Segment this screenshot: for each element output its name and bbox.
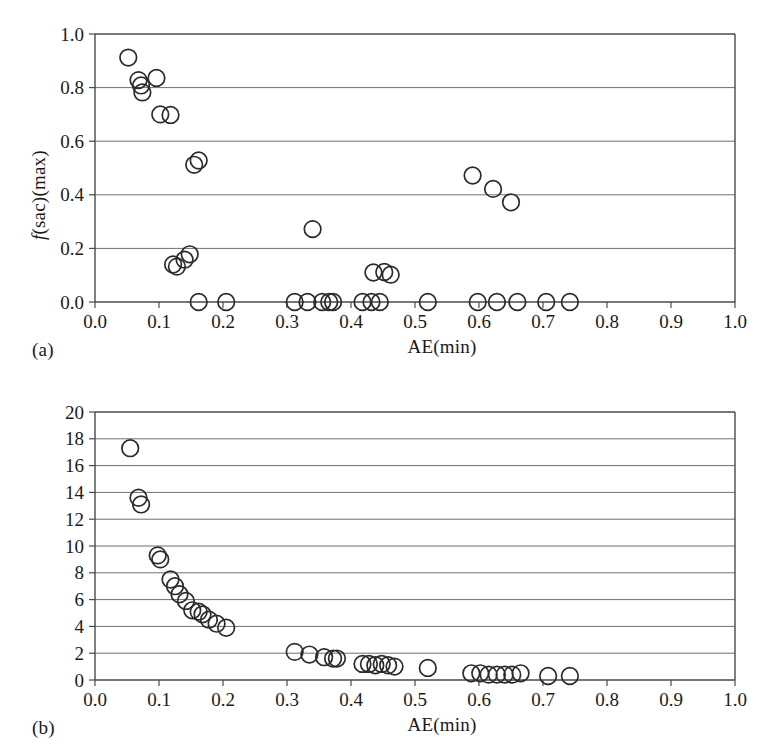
y-tick-label: 0.8 [60,77,84,98]
x-tick-label: 0.0 [83,311,107,332]
x-tick-label: 0.4 [339,311,363,332]
data-series [120,49,578,310]
x-axis-title-a: AE(min) [342,336,542,358]
data-point-marker [464,167,481,184]
x-tick-label: 0.1 [147,689,171,710]
data-point-marker [190,152,207,169]
x-tick-label: 0.5 [403,311,427,332]
data-point-marker [186,156,203,173]
x-tick-label: 0.6 [467,311,491,332]
data-point-marker [162,107,179,124]
y-tick-label: 18 [65,428,84,449]
panel-a: 0.00.20.40.60.81.00.00.10.20.30.40.50.60… [0,0,772,378]
y-axis-title-a-symbol: f [28,235,49,240]
data-point-marker [301,646,318,663]
panel-label-b: (b) [32,717,55,739]
y-tick-label: 0.6 [60,131,84,152]
y-tick-label: 16 [65,455,84,476]
x-tick-label: 0.3 [275,689,299,710]
x-tick-label: 0.4 [339,689,363,710]
y-tick-label: 8 [75,562,85,583]
y-tick-label: 2 [75,643,85,664]
data-point-marker [562,668,579,685]
data-point-marker [152,551,169,568]
data-point-marker [122,440,139,457]
data-point-marker [286,644,303,661]
scatter-plot-b: 024681012141618200.00.10.20.30.40.50.60.… [0,378,772,756]
data-point-marker [503,194,520,211]
y-tick-label: 14 [65,482,85,503]
data-point-marker [304,221,321,238]
y-tick-label: 20 [65,402,84,423]
x-tick-label: 0.2 [211,689,235,710]
x-tick-label: 0.5 [403,689,427,710]
data-point-marker [148,70,165,87]
data-point-marker [120,49,137,66]
x-axis-title-b: AE(min) [342,714,542,736]
y-tick-label: 0 [75,670,85,691]
y-tick-label: 6 [75,589,85,610]
y-tick-label: 10 [65,536,84,557]
y-tick-label: 0.4 [60,184,84,205]
y-tick-label: 12 [65,509,84,530]
scatter-plot-a: 0.00.20.40.60.81.00.00.10.20.30.40.50.60… [0,0,772,378]
x-tick-label: 0.8 [595,689,619,710]
x-tick-label: 1.0 [723,689,747,710]
panel-b: 024681012141618200.00.10.20.30.40.50.60.… [0,378,772,756]
figure-container: 0.00.20.40.60.81.00.00.10.20.30.40.50.60… [0,0,772,756]
data-point-marker [540,668,557,685]
y-tick-label: 0.2 [60,238,84,259]
data-point-marker [420,660,437,677]
x-tick-label: 0.9 [659,689,683,710]
x-tick-label: 0.0 [83,689,107,710]
y-tick-label: 0.0 [60,292,84,313]
y-axis-title-a: f(sac)(max) [28,150,50,240]
y-tick-label: 1.0 [60,24,84,45]
x-tick-label: 1.0 [723,311,747,332]
x-tick-label: 0.3 [275,311,299,332]
x-tick-label: 0.1 [147,311,171,332]
y-axis-title-a-rest: (sac)(max) [28,150,49,234]
x-tick-label: 0.2 [211,311,235,332]
y-tick-label: 4 [75,616,85,637]
x-tick-label: 0.7 [531,311,555,332]
data-series [122,440,578,684]
x-tick-label: 0.9 [659,311,683,332]
x-tick-label: 0.7 [531,689,555,710]
panel-label-a: (a) [32,339,54,361]
x-tick-label: 0.6 [467,689,491,710]
x-tick-label: 0.8 [595,311,619,332]
data-point-marker [218,619,235,636]
data-point-marker [133,496,150,513]
data-point-marker [382,266,399,283]
